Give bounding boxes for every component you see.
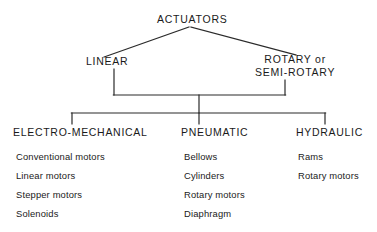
list-item: Rotary motors bbox=[184, 190, 245, 209]
edge-actuators-to-rotary bbox=[191, 27, 296, 55]
list-item: Solenoids bbox=[16, 209, 105, 228]
edge-actuators-to-linear bbox=[104, 27, 189, 57]
list-item: Linear motors bbox=[16, 171, 105, 190]
list-item: Rotary motors bbox=[298, 171, 359, 190]
list-item: Bellows bbox=[184, 152, 245, 171]
actuators-hierarchy-diagram: ACTUATORS LINEAR ROTARY or SEMI-ROTARY E… bbox=[0, 0, 377, 232]
list-item: Conventional motors bbox=[16, 152, 105, 171]
column-header-pneumatic: PNEUMATIC bbox=[181, 126, 248, 138]
root-node-actuators: ACTUATORS bbox=[157, 13, 228, 25]
list-item: Diaphragm bbox=[184, 209, 245, 228]
column-header-hydraulic: HYDRAULIC bbox=[296, 126, 363, 138]
column-list-electro-mechanical: Conventional motors Linear motors Steppe… bbox=[16, 152, 105, 228]
column-header-electro-mechanical: ELECTRO-MECHANICAL bbox=[13, 126, 148, 138]
node-linear: LINEAR bbox=[86, 55, 128, 67]
node-rotary-line2: SEMI-ROTARY bbox=[255, 66, 335, 78]
column-list-hydraulic: Rams Rotary motors bbox=[298, 152, 359, 190]
node-rotary-line1: ROTARY or bbox=[264, 53, 326, 65]
list-item: Stepper motors bbox=[16, 190, 105, 209]
list-item: Rams bbox=[298, 152, 359, 171]
column-list-pneumatic: Bellows Cylinders Rotary motors Diaphrag… bbox=[184, 152, 245, 228]
node-rotary-semi-rotary: ROTARY or SEMI-ROTARY bbox=[255, 53, 335, 80]
list-item: Cylinders bbox=[184, 171, 245, 190]
